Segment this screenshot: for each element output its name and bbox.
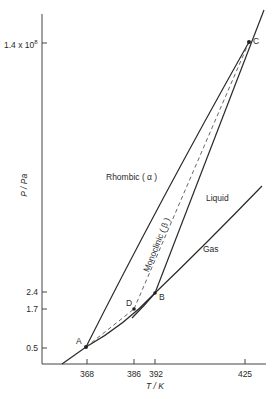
phase-diagram-plot — [0, 0, 277, 399]
y-tick-top-base: 1.4 x 10 — [4, 40, 34, 50]
region-label-liquid: Liquid — [206, 194, 229, 203]
point-label-b: B — [159, 293, 165, 302]
y-tick-label-1-7: 1.7 — [8, 305, 38, 314]
x-tick-label-368: 368 — [75, 370, 99, 379]
x-tick-label-386: 386 — [122, 370, 146, 379]
point-label-c: C — [253, 37, 259, 46]
y-tick-top-exp: 8 — [34, 39, 37, 45]
curve-rhombic-gas — [62, 347, 86, 364]
region-label-gas: Gas — [203, 245, 219, 254]
x-tick-label-392: 392 — [144, 370, 168, 379]
point-b-marker — [153, 291, 157, 295]
y-tick-label-2-4: 2.4 — [8, 288, 38, 297]
point-a-marker — [84, 345, 88, 349]
point-label-a: A — [76, 337, 82, 346]
x-axis-title: T / K — [146, 382, 164, 391]
y-tick-label-top: 1.4 x 108 — [4, 39, 34, 49]
y-tick-label-0-5: 0.5 — [8, 344, 38, 353]
point-d-marker — [132, 307, 136, 311]
x-tick-label-425: 425 — [233, 370, 257, 379]
y-axis-title: P / Pa — [20, 174, 29, 197]
curve-metastable-rhombic-gas — [86, 309, 134, 347]
point-c-marker — [247, 40, 251, 44]
region-label-rhombic: Rhombic ( α ) — [106, 173, 157, 182]
point-label-d: D — [126, 299, 132, 308]
